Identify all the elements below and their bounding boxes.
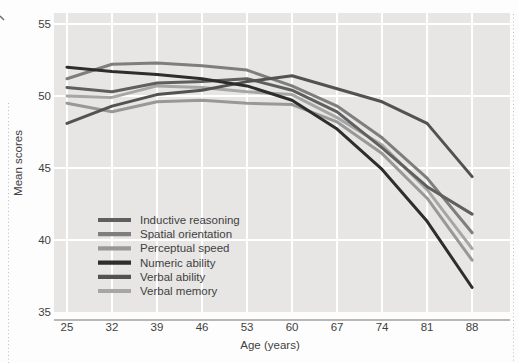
legend-label-inductive-reasoning: Inductive reasoning xyxy=(140,214,240,226)
mental-abilities-line-chart: 555045403525323946536067748188Age (years… xyxy=(0,0,519,363)
y-tick-label-50: 50 xyxy=(38,90,51,102)
legend-label-spatial-orientation: Spatial orientation xyxy=(140,228,232,240)
x-tick-label-32: 32 xyxy=(106,321,119,333)
x-tick-label-53: 53 xyxy=(241,321,254,333)
x-tick-label-60: 60 xyxy=(286,321,299,333)
y-tick-label-35: 35 xyxy=(38,306,51,318)
y-tick-label-45: 45 xyxy=(38,162,51,174)
legend-label-numeric-ability: Numeric ability xyxy=(140,257,216,269)
x-tick-label-25: 25 xyxy=(61,321,74,333)
x-tick-label-67: 67 xyxy=(331,321,344,333)
x-tick-label-88: 88 xyxy=(466,321,479,333)
y-axis-title: Mean scores xyxy=(12,130,24,196)
legend-label-verbal-memory: Verbal memory xyxy=(140,285,218,297)
x-tick-label-74: 74 xyxy=(376,321,389,333)
y-tick-label-40: 40 xyxy=(38,234,51,246)
x-tick-label-46: 46 xyxy=(196,321,209,333)
x-tick-label-81: 81 xyxy=(421,321,434,333)
plot-area xyxy=(54,13,510,312)
legend-label-verbal-ability: Verbal ability xyxy=(140,271,205,283)
legend-label-perceptual-speed: Perceptual speed xyxy=(140,242,230,254)
x-tick-label-39: 39 xyxy=(151,321,164,333)
x-axis-title: Age (years) xyxy=(240,339,300,351)
figure-page: 555045403525323946536067748188Age (years… xyxy=(0,0,519,363)
y-tick-label-55: 55 xyxy=(38,18,51,30)
